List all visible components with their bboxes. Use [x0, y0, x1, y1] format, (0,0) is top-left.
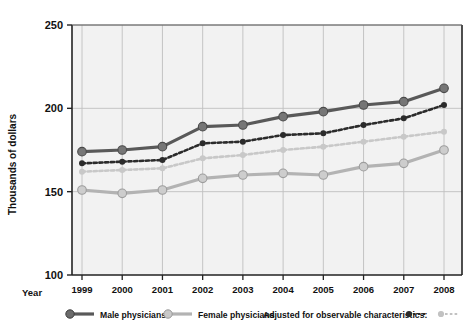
data-point-marker	[359, 162, 368, 171]
data-point-marker	[158, 186, 167, 195]
data-point-marker	[200, 155, 206, 161]
data-point-marker	[440, 84, 449, 93]
y-tick-label: 250	[45, 19, 63, 31]
x-tick-label: 2002	[192, 284, 213, 295]
legend-item-female[interactable]: Female physicians	[164, 310, 275, 320]
legend-female-marker	[164, 310, 172, 318]
data-point-marker	[119, 159, 125, 165]
data-point-marker	[78, 147, 87, 156]
data-point-marker	[78, 186, 87, 195]
data-point-marker	[361, 122, 367, 128]
data-point-marker	[239, 121, 248, 130]
line-chart: 100150200250 199920002001200220032004200…	[0, 0, 476, 331]
chart-container: 100150200250 199920002001200220032004200…	[0, 0, 476, 331]
data-point-marker	[159, 165, 165, 171]
data-point-marker	[320, 130, 326, 136]
data-point-marker	[200, 140, 206, 146]
x-tick-label: 2005	[313, 284, 335, 295]
y-axis-ticks: 100150200250	[45, 19, 72, 281]
data-point-marker	[158, 142, 167, 151]
legend-item-male[interactable]: Male physicians	[66, 310, 166, 320]
data-point-marker	[239, 171, 248, 180]
data-point-marker	[319, 107, 328, 116]
y-axis-title: Thousands of dollars	[7, 113, 18, 215]
x-tick-label: 2006	[353, 284, 374, 295]
data-point-marker	[401, 134, 407, 140]
data-point-marker	[198, 174, 207, 183]
data-point-marker	[279, 112, 288, 121]
y-tick-label: 150	[45, 186, 63, 198]
x-axis-ticks: 1999200020012002200320042005200620072008	[71, 275, 454, 295]
data-point-marker	[240, 139, 246, 145]
data-point-marker	[118, 189, 127, 198]
legend-male-marker	[66, 310, 74, 318]
x-tick-label: 2000	[112, 284, 133, 295]
data-point-marker	[118, 146, 127, 155]
data-point-marker	[79, 169, 85, 175]
y-tick-label: 200	[45, 102, 63, 114]
chart-legend: Male physicians Female physicians Adjust…	[66, 310, 459, 320]
legend-item-adjusted[interactable]: Adjusted for observable characteristics:	[263, 310, 459, 320]
data-point-marker	[119, 167, 125, 173]
x-tick-label: 2007	[393, 284, 414, 295]
data-point-marker	[319, 171, 328, 180]
x-tick-label: 2008	[433, 284, 454, 295]
data-point-marker	[159, 157, 165, 163]
data-point-marker	[440, 146, 449, 155]
legend-male-label: Male physicians	[100, 310, 166, 320]
x-tick-label: 2001	[152, 284, 174, 295]
x-axis-title: Year	[22, 287, 42, 298]
x-tick-label: 2003	[232, 284, 253, 295]
legend-male-dashed-marker	[406, 311, 412, 317]
data-point-marker	[441, 129, 447, 135]
data-point-marker	[280, 147, 286, 153]
data-point-marker	[79, 160, 85, 166]
data-point-marker	[198, 122, 207, 131]
y-tick-label: 100	[45, 269, 63, 281]
x-tick-label: 2004	[273, 284, 295, 295]
x-tick-label: 1999	[71, 284, 92, 295]
data-point-marker	[279, 169, 288, 178]
data-point-marker	[441, 102, 447, 108]
data-point-marker	[399, 97, 408, 106]
data-point-marker	[359, 101, 368, 110]
data-point-marker	[240, 152, 246, 158]
data-point-marker	[401, 115, 407, 121]
legend-adjusted-label: Adjusted for observable characteristics:	[263, 310, 427, 320]
data-point-marker	[399, 159, 408, 168]
data-point-marker	[320, 144, 326, 150]
legend-female-dashed-marker	[438, 311, 444, 317]
data-point-marker	[280, 132, 286, 138]
data-point-marker	[361, 139, 367, 145]
